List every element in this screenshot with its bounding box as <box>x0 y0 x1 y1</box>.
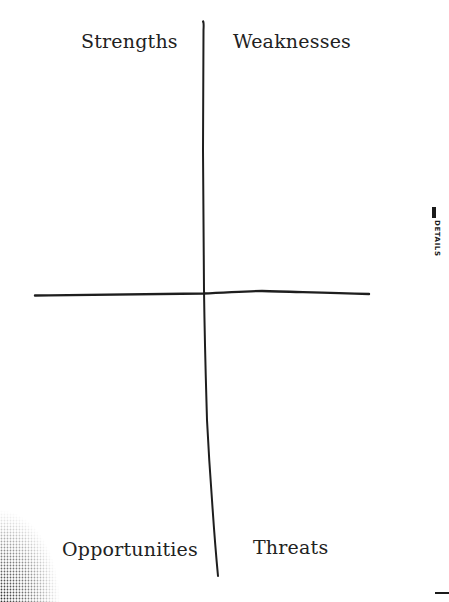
details-tab[interactable]: DETAILS <box>428 206 442 250</box>
threats-label: Threats <box>253 538 328 557</box>
details-tab-label: DETAILS <box>433 220 440 257</box>
panel-handle[interactable] <box>435 592 449 594</box>
details-tab-indicator <box>432 207 436 218</box>
horizontal-axis-line <box>35 291 369 296</box>
swot-axes <box>0 0 449 602</box>
vertical-axis-line <box>203 21 218 576</box>
weaknesses-label: Weaknesses <box>233 32 351 51</box>
strengths-label: Strengths <box>81 32 178 51</box>
swot-diagram: Strengths Weaknesses Opportunities Threa… <box>0 0 449 602</box>
opportunities-label: Opportunities <box>62 540 198 559</box>
halftone-texture <box>0 510 60 602</box>
